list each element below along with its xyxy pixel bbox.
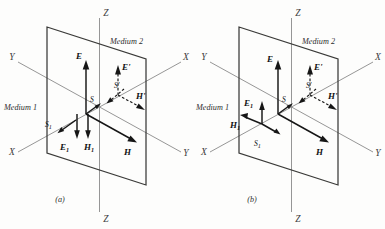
diagram-panel-b: Z Z X X Y Y Medium 2 Medium 1 E H S: [192, 0, 385, 229]
medium-1-label-b: Medium 1: [195, 103, 229, 112]
axis-label-z-top-b: Z: [295, 8, 301, 18]
axis-label-z-top-a: Z: [103, 8, 109, 18]
axis-label-x-right-b: X: [374, 52, 382, 62]
vector-label-S-b: S: [282, 95, 286, 104]
vector-label-Eprime-b: E': [313, 62, 323, 72]
vector-label-H-b: H: [315, 147, 324, 157]
axis-label-y-left-a: Y: [9, 52, 16, 62]
medium-2-label-a: Medium 2: [109, 37, 143, 46]
vector-label-E-b: E: [266, 54, 273, 64]
medium-1-label-a: Medium 1: [3, 103, 37, 112]
panel-caption-a: (a): [55, 195, 65, 204]
vector-label-Hprime-a: H': [135, 91, 146, 101]
axis-label-x-left-b: X: [200, 147, 208, 157]
vector-label-E-a: E: [75, 51, 82, 61]
axis-label-z-bottom-a: Z: [103, 214, 109, 224]
axis-label-y-right-a: Y: [183, 148, 190, 158]
vector-label-Hprime-b: H': [327, 91, 338, 101]
vector-label-H-a: H: [123, 147, 132, 157]
vector-label-S-a: S: [90, 95, 94, 104]
diagram-panel-a: Z Z X X Y Y Medium 2 Medium 1 E H S: [0, 0, 193, 229]
vector-label-Eprime-a: E': [121, 62, 131, 72]
figure-root: Z Z X X Y Y Medium 2 Medium 1 E H S: [0, 0, 385, 229]
axis-label-x-left-a: X: [8, 147, 16, 157]
vector-label-Sprime-b: S': [306, 81, 312, 90]
panel-caption-b: (b): [247, 195, 257, 204]
axis-label-y-right-b: Y: [375, 148, 382, 158]
axis-label-y-left-b: Y: [201, 52, 208, 62]
axis-label-x-right-a: X: [182, 52, 190, 62]
vector-label-Sprime-a: S': [114, 81, 120, 90]
axis-label-z-bottom-b: Z: [295, 214, 301, 224]
medium-2-label-b: Medium 2: [301, 37, 335, 46]
